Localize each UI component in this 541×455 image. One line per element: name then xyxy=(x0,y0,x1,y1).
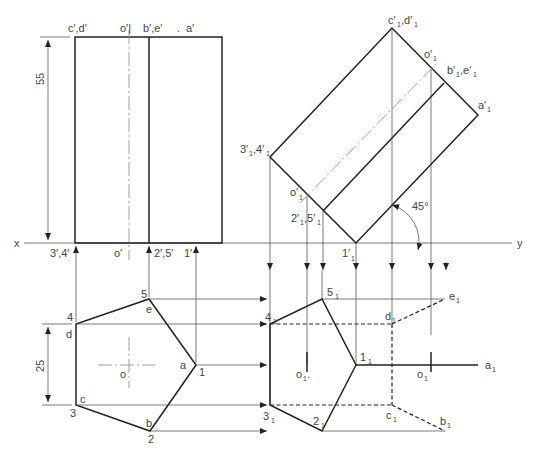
label-a1-prime: a′ xyxy=(478,99,486,111)
label-e1: e xyxy=(449,290,455,302)
aux-plan-pentagon xyxy=(270,299,356,431)
label-o1-prime-top: o′ xyxy=(424,48,432,60)
label-b: b xyxy=(146,417,152,429)
label-o-prime-top: o′| xyxy=(120,22,131,34)
label-41: 4 xyxy=(265,311,271,323)
label-3: 3 xyxy=(70,407,76,419)
label-e1-prime: ,e′ xyxy=(460,64,471,76)
label-11-prime: 1′ xyxy=(342,247,350,259)
label-51-prime: ,5′ xyxy=(304,212,315,224)
label-d1-prime: ,d′ xyxy=(401,14,412,26)
auxiliary-plan: 4 1 5 1 1 1 3 1 2 1 d 1 c 1 e 1 b 1 a 1 … xyxy=(263,286,496,431)
label-21-prime: 2′ xyxy=(291,212,299,224)
label-o1-right: o xyxy=(417,368,423,380)
label-11: 1 xyxy=(360,351,366,363)
label-cd-prime: c′,d′ xyxy=(68,22,87,34)
front-view: 55 c′,d′ o′| b′,e′ . a′ 3′,4′ o′ 2′,5′ 1… xyxy=(34,22,222,260)
label-34-prime: 3′,4′ xyxy=(50,247,69,259)
label-b1: b xyxy=(440,415,446,427)
label-31-prime: 3′ xyxy=(240,143,248,155)
x-label: x xyxy=(14,237,20,249)
aux-elevation-outline xyxy=(270,28,478,243)
sub: 1 xyxy=(492,366,496,373)
label-dot: . xyxy=(177,22,180,34)
label-51: 5 xyxy=(327,286,333,298)
sub: 1 xyxy=(473,71,477,78)
sub: 1 xyxy=(266,150,270,157)
sub: 1 xyxy=(321,422,325,429)
label-1: 1 xyxy=(199,366,205,378)
top-view-pentagon xyxy=(76,299,196,431)
sub: 1 xyxy=(299,194,303,201)
label-dot: . xyxy=(307,368,310,380)
label-4: 4 xyxy=(67,311,73,323)
label-d1: d xyxy=(385,310,391,322)
label-e: e xyxy=(146,303,152,315)
label-41-prime: ,4′ xyxy=(253,143,264,155)
sub: 1 xyxy=(335,293,339,300)
sub: 1 xyxy=(392,317,396,324)
dimension-55-label: 55 xyxy=(34,73,46,85)
sub: 1 xyxy=(433,55,437,62)
auxiliary-elevation: 45° c′ 1 ,d′ 1 o′ 1 b′ 1 ,e′ 1 a′ 1 3′ 1… xyxy=(240,14,491,262)
label-a: a xyxy=(180,359,187,371)
label-o: o xyxy=(120,368,126,380)
angle-45-label: 45° xyxy=(412,200,429,212)
label-5: 5 xyxy=(141,288,147,300)
label-o1-left: o xyxy=(296,368,302,380)
label-c1-prime: c′ xyxy=(388,14,396,26)
label-25-prime: 2′,5′ xyxy=(154,247,173,259)
label-o1-prime-low: o′ xyxy=(290,186,298,198)
sub: 1 xyxy=(271,417,275,424)
label-2: 2 xyxy=(148,433,154,445)
label-b1-prime: b′ xyxy=(447,64,455,76)
dimension-25-label: 25 xyxy=(34,360,46,372)
label-c1: c xyxy=(386,409,392,421)
sub: 1 xyxy=(273,318,277,325)
sub: 1 xyxy=(368,358,372,365)
label-21: 2 xyxy=(313,415,319,427)
sub: 1 xyxy=(487,106,491,113)
label-d: d xyxy=(66,328,72,340)
label-31: 3 xyxy=(263,410,269,422)
label-a-prime: a′ xyxy=(186,22,194,34)
label-1-prime: 1′ xyxy=(184,247,192,259)
label-be-prime: b′,e′ xyxy=(143,22,162,34)
top-to-front-projectors xyxy=(76,246,196,363)
sub: 1 xyxy=(447,422,451,429)
pentagonal-prism-projection-drawing: x y 55 c′,d′ o′| b′,e′ . a′ 3′,4′ o′ 2′,… xyxy=(0,0,541,455)
sub: 1 xyxy=(393,416,397,423)
y-label: y xyxy=(517,237,523,249)
label-o-prime-bottom: o′ xyxy=(114,247,122,259)
sub: 1 xyxy=(317,219,321,226)
sub: 1 xyxy=(414,21,418,28)
label-a1: a xyxy=(485,359,492,371)
sub: 1 xyxy=(424,375,428,382)
sub: 1 xyxy=(456,297,460,304)
aux-elevation-axis xyxy=(300,62,438,203)
label-c: c xyxy=(80,393,86,405)
top-view: 25 1 2 3 4 5 a b c d e o xyxy=(34,288,205,445)
sub: 1 xyxy=(351,255,355,262)
